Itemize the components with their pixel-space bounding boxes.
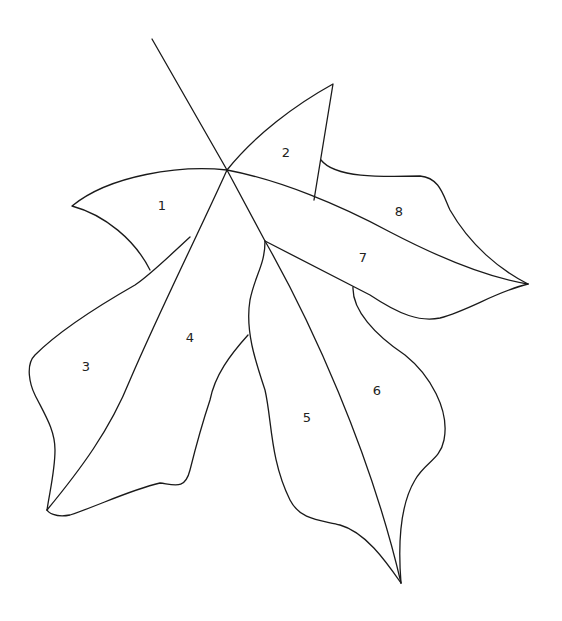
section-label-1: 1 bbox=[158, 198, 166, 213]
section-label-5: 5 bbox=[303, 410, 311, 425]
section-labels: 1 2 3 4 5 6 7 8 bbox=[82, 145, 403, 425]
vein-3-4 bbox=[47, 170, 227, 510]
section-label-7: 7 bbox=[359, 250, 367, 265]
stem-line bbox=[152, 39, 227, 170]
section-label-6: 6 bbox=[373, 383, 381, 398]
section-2-outline bbox=[227, 84, 333, 200]
section-4-outline bbox=[47, 335, 248, 516]
section-3-outline bbox=[29, 237, 190, 510]
vein-right bbox=[227, 170, 528, 284]
section-6-outline bbox=[353, 287, 445, 583]
section-label-8: 8 bbox=[395, 204, 403, 219]
leaf-outline bbox=[29, 39, 528, 583]
vein-5-6 bbox=[227, 170, 401, 583]
section-label-4: 4 bbox=[186, 330, 194, 345]
section-7-outline bbox=[265, 241, 528, 319]
section-8-outline bbox=[321, 160, 528, 284]
leaf-diagram: 1 2 3 4 5 6 7 8 bbox=[0, 0, 562, 621]
section-label-3: 3 bbox=[82, 359, 90, 374]
section-label-2: 2 bbox=[282, 145, 290, 160]
section-5-outline bbox=[249, 241, 401, 583]
